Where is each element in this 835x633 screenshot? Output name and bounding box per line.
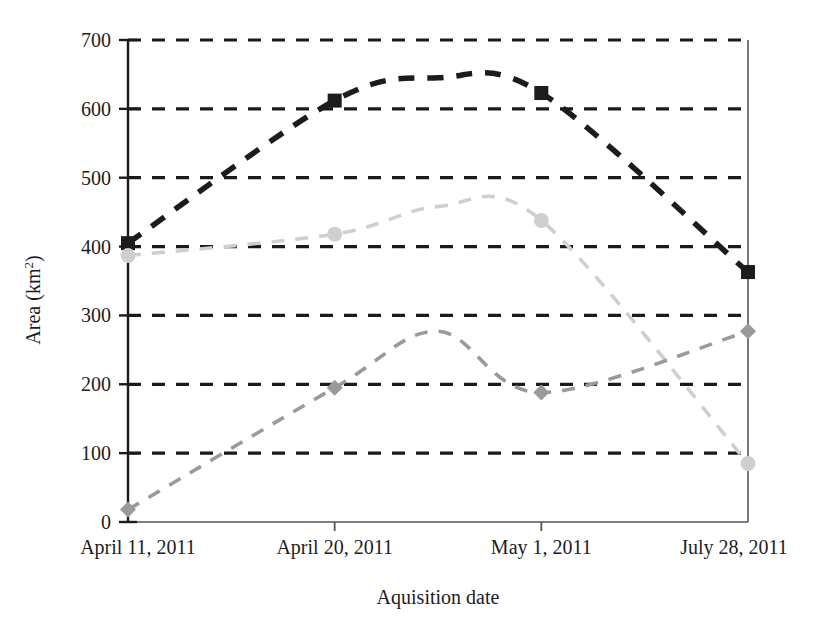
marker-series-dark-3	[741, 265, 755, 279]
x-category-label-0: April 11, 2011	[80, 536, 196, 559]
y-tick-label-500: 500	[81, 167, 111, 189]
marker-series-dark-2	[534, 86, 548, 100]
y-tick-label-0: 0	[101, 511, 111, 533]
chart-figure: 0100200300400500600700 April 11, 2011Apr…	[0, 0, 835, 633]
y-tick-label-600: 600	[81, 98, 111, 120]
x-category-label-3: July 28, 2011	[680, 536, 788, 559]
y-tick-label-700: 700	[81, 29, 111, 51]
y-axis-title: Area (km2)	[21, 255, 45, 344]
marker-series-dark-1	[328, 94, 342, 108]
y-tick-label-200: 200	[81, 373, 111, 395]
x-axis-title: Aquisition date	[377, 586, 500, 609]
marker-series-light-2	[534, 213, 549, 228]
y-tick-label-400: 400	[81, 236, 111, 258]
marker-series-light-1	[327, 227, 342, 242]
x-category-label-2: May 1, 2011	[491, 536, 592, 559]
y-tick-label-100: 100	[81, 442, 111, 464]
line-chart: 0100200300400500600700 April 11, 2011Apr…	[0, 0, 835, 633]
y-tick-label-300: 300	[81, 304, 111, 326]
x-category-label-1: April 20, 2011	[276, 536, 392, 559]
marker-series-light-3	[741, 456, 756, 471]
marker-series-light-0	[121, 248, 136, 263]
